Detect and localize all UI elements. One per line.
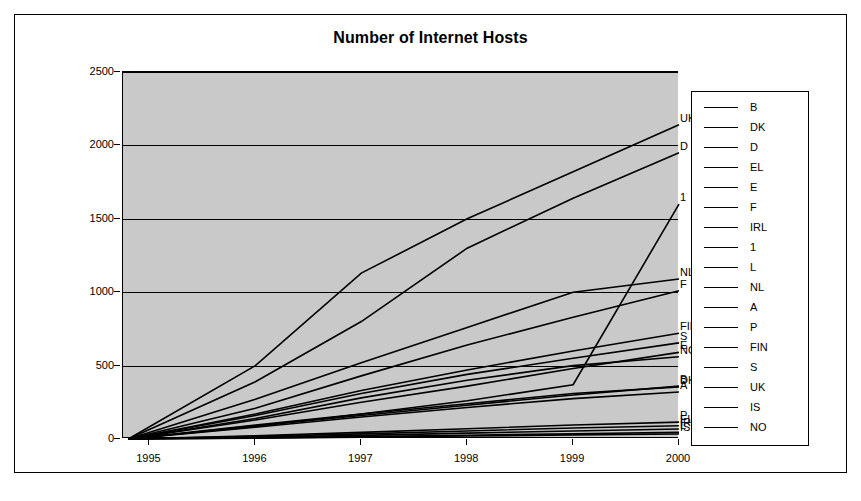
legend-item-irl[interactable]: IRL [692,217,808,237]
legend-line-icon [704,367,738,368]
legend-item-is[interactable]: IS [692,397,808,417]
y-tick-mark [114,144,120,145]
legend-line-icon [704,247,738,248]
x-tick-mark [466,439,467,445]
legend-line-icon [704,267,738,268]
legend-line-icon [704,167,738,168]
legend-item-fin[interactable]: FIN [692,337,808,357]
legend-item-d[interactable]: D [692,137,808,157]
legend-item-nl[interactable]: NL [692,277,808,297]
legend-item-e[interactable]: E [692,177,808,197]
legend: BDKDELEFIRL1LNLAPFINSUKISNO [691,91,809,446]
legend-line-icon [704,107,738,108]
series-end-label: D [680,141,688,152]
x-tick-label: 1999 [560,452,584,464]
y-axis: 05001000150020002500 [56,71,114,438]
legend-item-label: DK [750,122,765,133]
x-axis: 199519961997199819992000 [122,439,678,473]
legend-line-icon [704,387,738,388]
x-tick-mark [148,439,149,445]
y-tick-label: 1500 [60,212,114,224]
y-tick-label: 2000 [60,138,114,150]
legend-line-icon [704,187,738,188]
series-end-label: 1 [680,192,686,203]
x-tick-label: 1995 [136,452,160,464]
y-tick-mark [114,71,120,72]
legend-item-label: IS [750,402,760,413]
legend-item-label: A [750,302,757,313]
y-tick-label: 500 [60,359,114,371]
plot-area [122,71,678,438]
y-tick-mark [114,291,120,292]
y-tick-mark [114,218,120,219]
legend-item-l[interactable]: L [692,257,808,277]
legend-item-p[interactable]: P [692,317,808,337]
legend-line-icon [704,307,738,308]
y-tick-label: 1000 [60,285,114,297]
y-tick-mark [114,438,120,439]
data-series-lines [123,72,679,439]
x-tick-label: 2000 [666,452,690,464]
legend-line-icon [704,347,738,348]
y-tick-label: 0 [60,432,114,444]
series-end-label: L [680,420,686,431]
legend-item-el[interactable]: EL [692,157,808,177]
legend-item-label: B [750,102,757,113]
legend-item-label: S [750,362,757,373]
x-tick-label: 1997 [348,452,372,464]
legend-item-label: F [750,202,757,213]
legend-item-label: 1 [750,242,756,253]
legend-item-1[interactable]: 1 [692,237,808,257]
series-end-label: F [680,279,687,290]
x-tick-mark [678,439,679,445]
legend-item-no[interactable]: NO [692,417,808,437]
x-tick-mark [360,439,361,445]
y-tick-mark [114,365,120,366]
legend-item-uk[interactable]: UK [692,377,808,397]
legend-item-label: P [750,322,757,333]
legend-item-dk[interactable]: DK [692,117,808,137]
legend-line-icon [704,427,738,428]
series-line-nl [128,279,679,439]
legend-line-icon [704,207,738,208]
legend-item-s[interactable]: S [692,357,808,377]
legend-item-label: D [750,142,758,153]
x-tick-mark [254,439,255,445]
series-end-label: A [680,380,687,391]
x-tick-label: 1998 [454,452,478,464]
legend-item-label: EL [750,162,763,173]
legend-item-label: L [750,262,756,273]
x-tick-mark [572,439,573,445]
legend-item-label: NL [750,282,764,293]
legend-line-icon [704,127,738,128]
y-tick-label: 2500 [60,65,114,77]
legend-line-icon [704,287,738,288]
legend-line-icon [704,227,738,228]
legend-line-icon [704,407,738,408]
legend-item-a[interactable]: A [692,297,808,317]
chart-title: Number of Internet Hosts [15,29,846,47]
legend-line-icon [704,327,738,328]
chart-figure: Number of Internet Hosts 050010001500200… [14,14,847,473]
legend-item-b[interactable]: B [692,97,808,117]
legend-item-label: FIN [750,342,768,353]
legend-item-label: NO [750,422,767,433]
plot-wrapper: UKD1NLFFINSENOBDKAPELIRLISL [122,71,678,438]
legend-item-f[interactable]: F [692,197,808,217]
series-line-1 [128,204,679,439]
legend-item-label: IRL [750,222,767,233]
x-tick-label: 1996 [242,452,266,464]
legend-item-label: E [750,182,757,193]
legend-item-label: UK [750,382,765,393]
legend-line-icon [704,147,738,148]
